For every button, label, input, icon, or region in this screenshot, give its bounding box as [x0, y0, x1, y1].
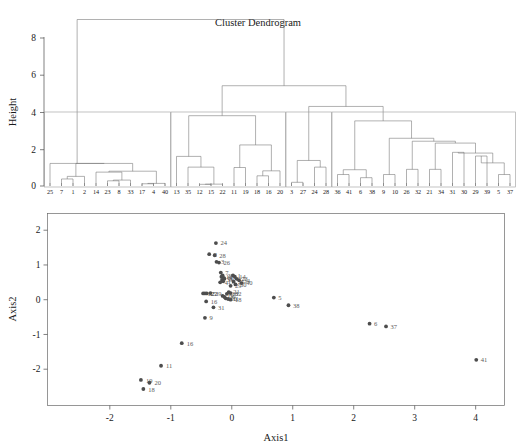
scatter-point-label-26: 26: [223, 259, 230, 266]
scatter-point-6: [368, 322, 372, 326]
dendro-link: [200, 184, 212, 186]
leaf-label-33: 33: [127, 188, 133, 195]
dendrogram-y-ticks: 0 2 4 6 8: [31, 33, 44, 191]
scatter-point-label-11: 11: [166, 362, 172, 369]
dendro-link: [297, 160, 320, 182]
leaf-label-11: 11: [231, 188, 237, 195]
scatter-point-label-18: 18: [235, 296, 242, 303]
leaf-label-37: 37: [507, 188, 513, 195]
cut-box-1: [45, 112, 171, 187]
dendro-link: [108, 181, 120, 186]
dendrogram-title: Cluster Dendrogram: [215, 17, 301, 28]
leaf-label-23: 23: [104, 188, 110, 195]
scatter-point-39: [209, 291, 213, 295]
leaf-label-28: 28: [323, 188, 329, 195]
leaf-label-6: 6: [359, 188, 362, 195]
dendrogram-y-axis-label: Height: [7, 98, 18, 127]
cut-box-4: [332, 112, 516, 187]
figure-root: Cluster Dendrogram 0 2 4 6 8 Height 2571…: [0, 0, 517, 448]
dendro-link: [412, 141, 455, 169]
leaf-label-21: 21: [426, 188, 432, 195]
dendrogram-svg: Cluster Dendrogram 0 2 4 6 8 Height 2571…: [0, 0, 517, 205]
leaf-label-17: 17: [139, 188, 145, 195]
scatter-ytick-1: 1: [36, 260, 41, 270]
dendro-link: [96, 172, 122, 186]
scatter-point-28: [213, 253, 217, 257]
dendro-link: [234, 168, 246, 187]
dendro-link: [77, 20, 284, 164]
leaf-label-14: 14: [93, 188, 99, 195]
scatter-point-26: [217, 261, 221, 265]
scatter-y-axis-label: Axis2: [7, 296, 18, 321]
scatter-point-20: [148, 381, 152, 385]
dendrogram-ytick-0: 0: [31, 181, 36, 191]
leaf-label-29: 29: [472, 188, 478, 195]
dendro-link: [76, 163, 133, 176]
scatter-ytick-2: 2: [36, 225, 41, 235]
scatter-y-ticks: -2-1012: [33, 225, 48, 374]
scatter-point-24: [214, 241, 218, 245]
leaf-label-36: 36: [334, 188, 340, 195]
scatter-point-41: [474, 358, 478, 362]
dendro-link: [338, 175, 350, 186]
dendro-link: [62, 179, 74, 186]
dendro-link: [384, 175, 396, 186]
leaf-label-38: 38: [369, 188, 375, 195]
leaf-label-5: 5: [497, 188, 500, 195]
dendro-link: [222, 86, 346, 116]
leaf-label-12: 12: [196, 188, 202, 195]
leaf-label-34: 34: [438, 188, 444, 195]
scatter-point-label-37: 37: [391, 323, 398, 330]
scatter-point-label-31: 31: [218, 304, 225, 311]
scatter-point-9: [203, 316, 207, 320]
scatter-point-label-40: 40: [246, 279, 253, 286]
scatter-svg: -2-1012 -2-101234 Axis2 Axis1 2422832672…: [0, 205, 517, 448]
dendrogram-ytick-4: 4: [31, 108, 36, 118]
scatter-point-label-6: 6: [374, 320, 378, 327]
leaf-label-4: 4: [152, 188, 155, 195]
dendro-link: [177, 156, 201, 186]
dendro-link: [361, 178, 373, 186]
leaf-label-13: 13: [173, 188, 179, 195]
dendro-link: [142, 184, 154, 186]
leaf-label-20: 20: [277, 188, 283, 195]
scatter-point-22: [205, 292, 209, 296]
dendro-link: [435, 143, 475, 169]
dendro-link: [453, 152, 465, 186]
scatter-xtick-0: 0: [229, 413, 234, 423]
leaf-label-10: 10: [392, 188, 398, 195]
scatter-point-2: [207, 252, 211, 256]
scatter-point-31: [212, 305, 216, 309]
scatter-panel: -2-1012 -2-101234 Axis2 Axis1 2422832672…: [0, 205, 517, 448]
leaf-label-25: 25: [47, 188, 53, 195]
scatter-point-19: [139, 378, 143, 382]
scatter-xtick-2: 2: [351, 413, 356, 423]
scatter-points: 2422832672713358331741142334402530292132…: [139, 239, 487, 392]
leaf-label-9: 9: [382, 188, 385, 195]
scatter-point-19: [221, 294, 225, 298]
leaf-label-7: 7: [60, 188, 63, 195]
scatter-point-label-9: 9: [209, 314, 212, 321]
scatter-xtick--1: -1: [167, 413, 175, 423]
scatter-ytick--1: -1: [33, 330, 41, 340]
scatter-point-label-18: 18: [148, 386, 155, 393]
dendro-link: [407, 169, 419, 186]
dendro-link: [430, 169, 442, 186]
leaf-label-35: 35: [185, 188, 191, 195]
scatter-x-ticks: -2-101234: [106, 406, 478, 423]
dendro-link: [240, 145, 272, 171]
leaf-label-15: 15: [208, 188, 214, 195]
scatter-ytick-0: 0: [36, 295, 41, 305]
scatter-point-label-38: 38: [293, 302, 300, 309]
dendrogram-ytick-6: 6: [31, 70, 36, 80]
leaf-label-19: 19: [242, 188, 248, 195]
dendro-link: [189, 116, 256, 157]
dendrogram-panel: Cluster Dendrogram 0 2 4 6 8 Height 2571…: [0, 0, 517, 205]
scatter-point-38: [287, 303, 291, 307]
leaf-label-26: 26: [403, 188, 409, 195]
leaf-label-24: 24: [311, 188, 317, 195]
dendro-link: [257, 176, 269, 186]
leaf-label-22: 22: [219, 188, 225, 195]
scatter-point-16: [204, 300, 208, 304]
scatter-point-label-16: 16: [187, 340, 194, 347]
